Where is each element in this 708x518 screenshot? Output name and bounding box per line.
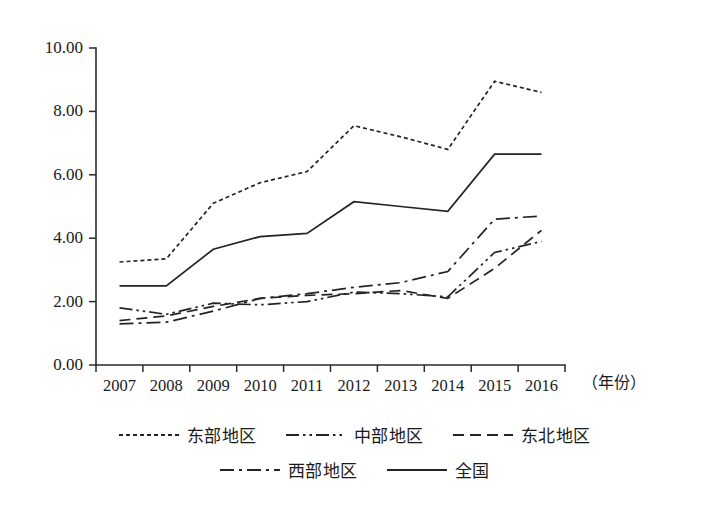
x-tick-label: 2009 <box>197 376 230 395</box>
x-tick-label: 2007 <box>103 376 136 395</box>
y-tick-label: 4.00 <box>53 228 83 247</box>
x-tick-label: 2013 <box>384 376 417 395</box>
series-line-solid <box>120 154 542 286</box>
legend-label: 东部地区 <box>187 422 257 447</box>
x-tick-label: 2010 <box>244 376 277 395</box>
series-line-dotted <box>120 81 542 262</box>
legend-swatch-solid <box>386 463 448 477</box>
y-tick-label: 6.00 <box>53 165 83 184</box>
legend-item-全国[interactable]: 全国 <box>386 457 490 482</box>
legend-label: 西部地区 <box>288 457 358 482</box>
x-tick-label: 2014 <box>431 376 464 395</box>
legend-item-西部地区[interactable]: 西部地区 <box>219 457 358 482</box>
y-tick-label: 10.00 <box>45 38 83 57</box>
x-axis-tick-labels: 2007200820092010201120122013201420152016 <box>103 376 558 395</box>
legend-row: 东部地区中部地区东北地区 <box>104 422 605 447</box>
y-axis-tick-labels: 0.002.004.006.008.0010.00 <box>45 38 83 374</box>
legend-label: 中部地区 <box>354 422 424 447</box>
series-line-dashed <box>120 230 542 320</box>
x-axis-ticks <box>96 365 565 372</box>
legend-swatch-dash-dot-dot <box>285 428 347 442</box>
legend-item-东部地区[interactable]: 东部地区 <box>118 422 257 447</box>
legend-label: 东北地区 <box>521 422 591 447</box>
legend-row: 西部地区全国 <box>205 457 504 482</box>
x-tick-label: 2011 <box>291 376 323 395</box>
legend-label: 全国 <box>455 457 490 482</box>
line-chart: 0.002.004.006.008.0010.00 20072008200920… <box>0 0 708 518</box>
data-series-group <box>120 81 542 323</box>
legend-swatch-dotted <box>118 428 180 442</box>
x-axis-caption: （年份） <box>582 374 646 391</box>
x-tick-label: 2015 <box>478 376 511 395</box>
y-tick-label: 0.00 <box>53 355 83 374</box>
y-tick-label: 8.00 <box>53 101 83 120</box>
legend-item-中部地区[interactable]: 中部地区 <box>285 422 424 447</box>
chart-legend: 东部地区中部地区东北地区西部地区全国 <box>0 422 708 482</box>
legend-swatch-dash-dot <box>219 463 281 477</box>
x-tick-label: 2016 <box>525 376 558 395</box>
series-line-dash-dot <box>120 216 542 324</box>
legend-item-东北地区[interactable]: 东北地区 <box>452 422 591 447</box>
y-tick-label: 2.00 <box>53 292 83 311</box>
legend-swatch-dashed <box>452 428 514 442</box>
x-tick-label: 2012 <box>337 376 370 395</box>
y-axis-ticks <box>89 48 96 365</box>
x-tick-label: 2008 <box>150 376 183 395</box>
